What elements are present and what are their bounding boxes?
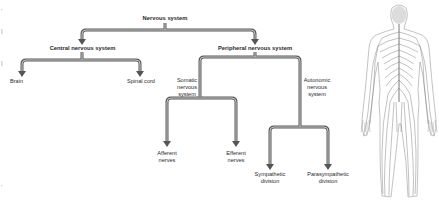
arrow-to-spinal-cord (136, 71, 144, 77)
node-brain: Brain (10, 78, 30, 85)
edge-artifact: | (1, 60, 3, 66)
label-line: division (252, 178, 288, 185)
edge-artifact: ' (1, 184, 2, 190)
label-line: nervous (175, 84, 199, 91)
label-line: nervous (301, 84, 333, 91)
arrow-to-sympathetic (266, 164, 274, 170)
label-line: Autonomic (301, 77, 333, 84)
node-sympathetic-division: Sympathetic division (252, 171, 288, 185)
human-nervous-system-figure (360, 2, 438, 202)
node-efferent-nerves: Efferent nerves (221, 150, 251, 164)
node-central-nervous-system: Central nervous system (45, 45, 120, 52)
arrow-to-parasympathetic (324, 164, 332, 170)
edge-artifact: | (1, 28, 3, 34)
label-line: Efferent (221, 150, 251, 157)
node-somatic-nervous-system: Somatic nervous system (175, 77, 199, 98)
arrow-to-brain (18, 71, 26, 77)
edge-artifact: ' (1, 8, 2, 14)
node-autonomic-nervous-system: Autonomic nervous system (301, 77, 333, 98)
node-nervous-system: Nervous system (140, 15, 190, 22)
head (392, 6, 407, 24)
label-line: division (306, 178, 350, 185)
node-spinal-cord: Spinal cord (123, 78, 159, 85)
label-line: Parasympathetic (306, 171, 350, 178)
node-peripheral-nervous-system: Peripheral nervous system (212, 45, 298, 52)
node-parasympathetic-division: Parasympathetic division (306, 171, 350, 185)
label-line: nerves (221, 157, 251, 164)
label-line: system (175, 91, 199, 98)
node-afferent-nerves: Afferent nerves (152, 150, 182, 164)
label-line: system (301, 91, 333, 98)
arrow-to-efferent (232, 141, 240, 147)
label-line: Afferent (152, 150, 182, 157)
label-line: Sympathetic (252, 171, 288, 178)
label-line: nerves (152, 157, 182, 164)
label-line: Somatic (175, 77, 199, 84)
arrow-to-afferent (163, 141, 171, 147)
